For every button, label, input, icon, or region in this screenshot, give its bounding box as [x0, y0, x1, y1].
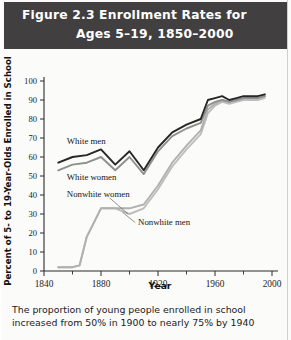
x-tick-label: 1960: [206, 279, 225, 289]
chart-plot-area: 0102030405060708090100 18401880192019602…: [0, 49, 291, 296]
y-tick-label: 80: [28, 114, 37, 124]
y-tick-label: 20: [28, 228, 37, 238]
leader-nonwhite-women: [110, 198, 129, 214]
series-line-nonwhite-men: [58, 98, 265, 267]
series-label-white-men: White men: [67, 136, 106, 146]
figure-title-line-2: Ages 5–19, 1850–2000: [4, 27, 287, 41]
x-tick-label: 2000: [263, 279, 282, 289]
y-axis-title: Percent of 5- to 19-Year-Olds Enrolled i…: [3, 56, 13, 286]
y-tick-label: 50: [28, 171, 37, 181]
figure-title-line-1: Figure 2.3 Enrollment Rates for: [4, 8, 287, 22]
y-tick-label: 0: [33, 266, 37, 276]
caption-line-1: The proportion of young people enrolled …: [12, 303, 280, 316]
page-right-edge: [287, 0, 288, 340]
y-tick-label: 30: [28, 209, 37, 219]
y-tick-label: 60: [28, 152, 37, 162]
y-tick-label: 40: [28, 190, 37, 200]
y-tick-label: 100: [24, 76, 37, 86]
y-axis-ticks: 0102030405060708090100: [24, 76, 44, 276]
series-line-white-men: [58, 94, 265, 170]
caption-line-2: increased from 50% in 1900 to nearly 75%…: [12, 316, 280, 329]
y-tick-label: 70: [28, 133, 37, 143]
y-tick-label: 10: [28, 247, 37, 257]
enrollment-line-chart: 0102030405060708090100 18401880192019602…: [0, 49, 291, 296]
figure-panel: Figure 2.3 Enrollment Rates for Ages 5–1…: [0, 0, 291, 340]
series-label-white-women: White women: [67, 172, 117, 182]
figure-title-bar: Figure 2.3 Enrollment Rates for Ages 5–1…: [4, 2, 287, 49]
x-tick-label: 1840: [35, 279, 54, 289]
series-label-nonwhite-women: Nonwhite women: [67, 189, 130, 199]
figure-caption: The proportion of young people enrolled …: [12, 303, 280, 329]
y-tick-label: 90: [28, 95, 37, 105]
x-axis-title: Year: [148, 280, 172, 291]
series-label-nonwhite-men: Nonwhite men: [138, 217, 191, 227]
x-tick-label: 1880: [92, 279, 111, 289]
